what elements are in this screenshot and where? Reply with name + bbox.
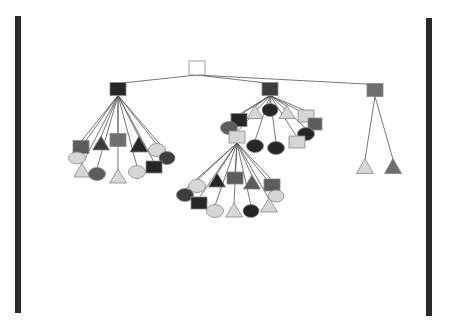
- tree-node-square: [264, 179, 280, 191]
- tree-node-ellipse: [89, 168, 106, 181]
- tree-edge: [197, 75, 270, 84]
- tree-node-square: [229, 131, 245, 143]
- tree-node-ellipse: [247, 140, 264, 153]
- tree-node-square: [110, 134, 126, 147]
- tree-node-ellipse: [207, 205, 224, 218]
- tree-diagram: [0, 0, 451, 328]
- tree-edge: [118, 75, 197, 84]
- tree-edge: [365, 97, 375, 160]
- tree-node-square: [146, 161, 162, 173]
- tree-edge: [375, 97, 393, 160]
- tree-node-square: [262, 83, 278, 96]
- tree-node-triangle: [74, 163, 90, 177]
- tree-edge: [197, 75, 375, 85]
- tree-node-triangle: [357, 159, 374, 174]
- tree-node-square: [227, 172, 243, 184]
- tree-node-ellipse: [129, 166, 146, 179]
- tree-node-ellipse: [69, 152, 86, 164]
- tree-node-square: [367, 84, 383, 97]
- tree-node-triangle: [226, 203, 243, 217]
- tree-node-ellipse: [268, 142, 285, 155]
- tree-node-triangle: [130, 136, 148, 152]
- tree-node-ellipse: [262, 104, 278, 117]
- tree-node-ellipse: [243, 205, 259, 218]
- tree-node-triangle: [93, 136, 110, 150]
- tree-node-triangle: [385, 159, 402, 174]
- tree-node-square: [289, 136, 305, 148]
- tree-edge: [97, 96, 118, 169]
- tree-edge: [270, 96, 276, 143]
- tree-node-triangle: [247, 106, 263, 119]
- tree-node-square: [191, 197, 207, 209]
- tree-node-square: [110, 83, 126, 96]
- tree-node-triangle: [110, 169, 127, 183]
- tree-node-square: [189, 61, 205, 75]
- tree-node-square: [73, 141, 89, 154]
- tree-nodes: [69, 61, 402, 218]
